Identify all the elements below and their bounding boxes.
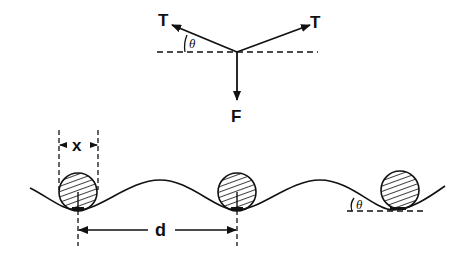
x-dimension-label: x bbox=[72, 136, 82, 155]
weight-label: F bbox=[231, 107, 241, 126]
physics-diagram: T T F θ x d θ bbox=[0, 0, 471, 260]
tension-right-arrow bbox=[237, 25, 310, 52]
ball-3-contact bbox=[390, 207, 406, 210]
d-dimension-label: d bbox=[155, 220, 166, 240]
tension-right-label: T bbox=[310, 13, 321, 32]
tension-left-label: T bbox=[158, 11, 169, 30]
slope-angle-label: θ bbox=[356, 197, 363, 212]
tension-left-arrow bbox=[172, 25, 237, 52]
ball-3 bbox=[381, 171, 419, 209]
angle-label: θ bbox=[189, 36, 196, 51]
angle-arc bbox=[185, 35, 187, 52]
slope-angle-arc bbox=[351, 198, 354, 211]
wave-diagram: x d θ bbox=[30, 130, 445, 246]
force-diagram: T T F θ bbox=[157, 11, 321, 126]
